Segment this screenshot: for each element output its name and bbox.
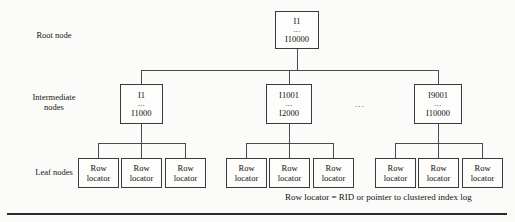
- intermediate-node-2-last: I2000: [279, 108, 299, 119]
- leaf-node-7-line1: Row: [387, 163, 403, 174]
- connector-drop-leaf-9: [482, 143, 483, 158]
- leaf-node-2-line1: Row: [133, 163, 149, 174]
- leaf-node-6: Row locator: [313, 158, 354, 188]
- leaf-node-7: Row locator: [375, 158, 416, 188]
- leaf-node-2: Row locator: [121, 158, 162, 188]
- connector-stem-group-2: [289, 124, 290, 143]
- leaf-node-1: Row locator: [78, 158, 119, 188]
- connector-drop-leaf-1: [98, 143, 99, 158]
- leaf-node-1-line1: Row: [90, 163, 106, 174]
- leaf-node-5: Row locator: [269, 158, 310, 188]
- intermediate-node-2: I1001 ... I2000: [266, 84, 312, 124]
- intermediate-node-3-ellipsis: ...: [434, 101, 441, 107]
- intermediate-node-2-ellipsis: ...: [285, 101, 292, 107]
- row-label-intermediate: Intermediate nodes: [6, 92, 102, 112]
- connector-drop-leaf-6: [333, 143, 334, 158]
- intermediate-node-3: I9001 ... I10000: [414, 84, 462, 124]
- leaf-node-6-line1: Row: [325, 163, 341, 174]
- leaf-node-8-line1: Row: [430, 163, 446, 174]
- leaf-node-4-line2: locator: [235, 173, 259, 184]
- connector-drop-leaf-5: [289, 143, 290, 158]
- connector-drop-intermediate-3: [438, 70, 439, 84]
- connector-drop-leaf-7: [395, 143, 396, 158]
- leaf-node-5-line2: locator: [278, 173, 302, 184]
- connector-root-stem: [297, 49, 298, 70]
- leaf-node-3-line2: locator: [174, 173, 198, 184]
- intermediate-node-1-last: I1000: [132, 108, 152, 119]
- leaf-node-9-line1: Row: [474, 163, 490, 174]
- leaf-node-7-line2: locator: [384, 173, 408, 184]
- leaf-node-9-line2: locator: [471, 173, 495, 184]
- leaf-node-3-line1: Row: [177, 163, 193, 174]
- root-node-ellipsis: ...: [293, 27, 300, 33]
- leaf-node-8-line2: locator: [427, 173, 451, 184]
- row-label-root: Root node: [6, 30, 102, 40]
- leaf-node-1-line2: locator: [87, 173, 111, 184]
- bottom-divider: [7, 213, 507, 215]
- intermediate-node-1: I1 ... I1000: [120, 84, 163, 124]
- leaf-node-5-line1: Row: [281, 163, 297, 174]
- connector-stem-group-1: [141, 124, 142, 143]
- connector-drop-leaf-8: [438, 143, 439, 158]
- connector-drop-intermediate-1: [141, 70, 142, 84]
- connector-drop-intermediate-2: [289, 70, 290, 84]
- connector-drop-leaf-2: [141, 143, 142, 158]
- leaf-node-6-line2: locator: [322, 173, 346, 184]
- connector-drop-leaf-4: [246, 143, 247, 158]
- intermediate-node-1-ellipsis: ...: [138, 101, 145, 107]
- leaf-node-4-line1: Row: [238, 163, 254, 174]
- leaf-node-4: Row locator: [226, 158, 267, 188]
- root-node-last: I10000: [285, 34, 309, 45]
- diagram-canvas: Root node Intermediate nodes Leaf nodes …: [0, 0, 515, 222]
- connector-drop-leaf-3: [185, 143, 186, 158]
- leaf-node-8: Row locator: [418, 158, 459, 188]
- diagram-caption: Row locator = RID or pointer to clustere…: [285, 192, 472, 203]
- leaf-node-2-line2: locator: [130, 173, 154, 184]
- intermediate-node-3-last: I10000: [426, 108, 450, 119]
- leaf-node-9: Row locator: [462, 158, 503, 188]
- connector-stem-group-3: [438, 124, 439, 143]
- gap-ellipsis: ...: [355, 100, 365, 109]
- leaf-node-3: Row locator: [165, 158, 206, 188]
- root-node: I1 ... I10000: [275, 11, 319, 49]
